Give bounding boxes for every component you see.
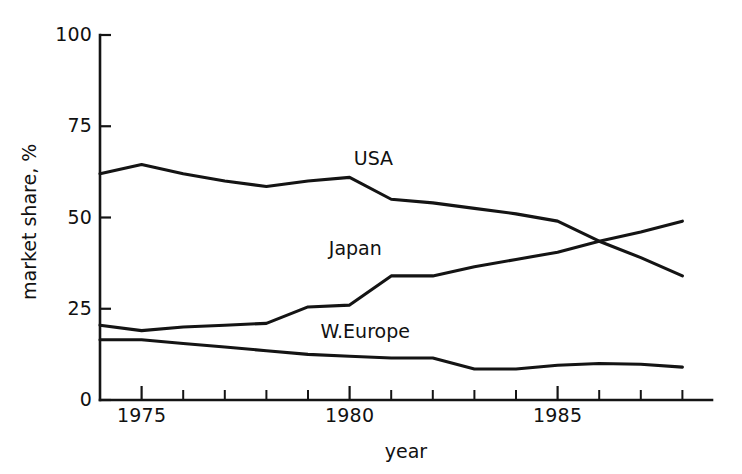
y-axis-title: market share, %	[18, 144, 40, 300]
series-line-usa	[100, 165, 682, 276]
x-tick-marks-minor	[100, 390, 682, 400]
x-tick-label-1980: 1980	[310, 404, 390, 426]
y-tick-label-100: 100	[20, 23, 92, 45]
x-tick-marks-major	[142, 386, 558, 400]
series-label-usa: USA	[354, 147, 393, 169]
chart-figure: 0255075100 197519801985 USAJapanW.Europe…	[0, 0, 742, 474]
series-label-japan: Japan	[329, 237, 382, 259]
series-line-w-europe	[100, 340, 682, 369]
y-tick-label-75: 75	[20, 114, 92, 136]
y-tick-marks	[100, 35, 111, 400]
y-tick-label-0: 0	[20, 388, 92, 410]
x-axis-title: year	[326, 440, 486, 462]
y-tick-label-25: 25	[20, 297, 92, 319]
series-label-w-europe: W.Europe	[320, 320, 409, 342]
x-tick-label-1985: 1985	[518, 404, 598, 426]
x-tick-label-1975: 1975	[102, 404, 182, 426]
